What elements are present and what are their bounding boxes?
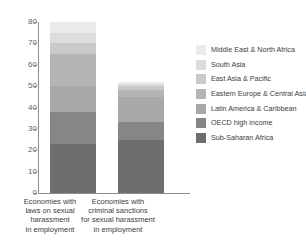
legend-item[interactable]: Latin America & Caribbean xyxy=(196,101,304,116)
legend-color-swatch xyxy=(196,74,206,84)
legend-item[interactable]: South Asia xyxy=(196,58,304,73)
legend-item-label: South Asia xyxy=(211,61,245,69)
legend-item-label: Latin America & Caribbean xyxy=(211,105,297,113)
bar-segment xyxy=(118,140,164,193)
y-axis-tick-label: 0 xyxy=(3,189,37,197)
y-axis-tick: 50 xyxy=(0,86,37,87)
legend-color-swatch xyxy=(196,104,206,114)
category-label-line: for sexual harassment xyxy=(75,215,161,224)
bar-segment xyxy=(50,54,96,86)
legend-item-label: Eastern Europe & Central Asia xyxy=(211,90,306,98)
y-axis-tick: 60 xyxy=(0,65,37,66)
bar-stack xyxy=(118,82,164,193)
legend-color-swatch xyxy=(196,118,206,128)
bar-segment xyxy=(50,144,96,193)
category-label-line: Economies with xyxy=(75,197,161,206)
y-axis-tick-mark xyxy=(34,65,37,66)
y-axis-tick-label: 40 xyxy=(3,104,37,112)
y-axis-tick: 0 xyxy=(0,193,37,194)
y-axis-tick: 10 xyxy=(0,172,37,173)
legend-color-swatch xyxy=(196,89,206,99)
y-axis-tick-mark xyxy=(34,150,37,151)
plot-area xyxy=(38,22,188,193)
legend-item[interactable]: Eastern Europe & Central Asia xyxy=(196,87,304,102)
legend-color-swatch xyxy=(196,133,206,143)
category-label-line: criminal sanctions xyxy=(75,206,161,215)
y-axis-tick-label: 70 xyxy=(3,39,37,47)
y-axis-tick-label: 80 xyxy=(3,18,37,26)
category-label-line: in employment xyxy=(75,225,161,234)
y-axis-tick: 70 xyxy=(0,43,37,44)
legend-item-label: Sub-Saharan Africa xyxy=(211,134,273,142)
y-axis-tick: 20 xyxy=(0,150,37,151)
x-axis-category-label: Economies withcriminal sanctionsfor sexu… xyxy=(75,197,161,234)
legend-item-label: East Asia & Pacific xyxy=(211,75,271,83)
y-axis-tick-label: 10 xyxy=(3,168,37,176)
x-axis-baseline xyxy=(38,193,190,194)
legend-color-swatch xyxy=(196,45,206,55)
y-axis-tick-mark xyxy=(34,43,37,44)
legend-color-swatch xyxy=(196,60,206,70)
y-axis-tick-mark xyxy=(34,86,37,87)
legend-item[interactable]: OECD high income xyxy=(196,116,304,131)
bar-segment xyxy=(50,22,96,33)
legend-item[interactable]: East Asia & Pacific xyxy=(196,72,304,87)
bar-segment xyxy=(118,97,164,123)
legend-item-label: Middle East & North Africa xyxy=(211,46,295,54)
y-axis-tick-mark xyxy=(34,193,37,194)
legend-item[interactable]: Sub-Saharan Africa xyxy=(196,131,304,146)
bar-segment xyxy=(50,86,96,112)
y-axis-tick: 80 xyxy=(0,22,37,23)
y-axis-tick-mark xyxy=(34,22,37,23)
bar-stack xyxy=(50,22,96,193)
bar-segment xyxy=(50,43,96,54)
y-axis-tick: 30 xyxy=(0,129,37,130)
y-axis-tick-mark xyxy=(34,108,37,109)
legend-item[interactable]: Middle East & North Africa xyxy=(196,43,304,58)
y-axis-tick-mark xyxy=(34,129,37,130)
y-axis-tick-label: 20 xyxy=(3,146,37,154)
y-axis-tick: 40 xyxy=(0,108,37,109)
legend-item-label: OECD high income xyxy=(211,119,273,127)
stacked-bar-chart: 01020304050607080 Economies withlaws on … xyxy=(0,0,306,241)
y-axis-tick-label: 50 xyxy=(3,82,37,90)
bar-segment xyxy=(118,122,164,139)
y-axis-tick-label: 30 xyxy=(3,125,37,133)
y-axis-tick-label: 60 xyxy=(3,61,37,69)
bar-segment xyxy=(50,33,96,44)
y-axis-tick-mark xyxy=(34,172,37,173)
chart-legend: Middle East & North AfricaSouth AsiaEast… xyxy=(196,43,304,145)
bar-segment xyxy=(50,112,96,144)
